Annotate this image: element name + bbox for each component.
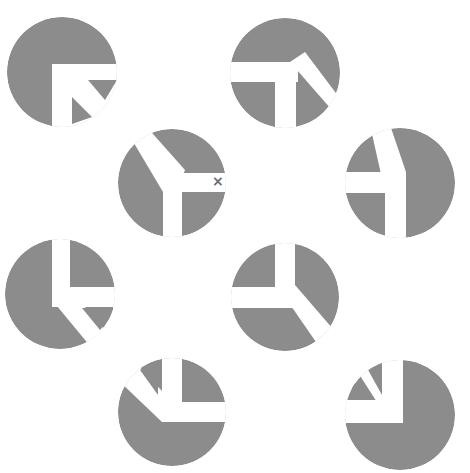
disk-8 (340, 352, 455, 470)
disk-4 (340, 125, 455, 242)
disk-cutout (225, 62, 298, 82)
cross-marker-icon: × (212, 174, 224, 188)
disk-cutout (163, 173, 182, 240)
disk-2 (225, 18, 345, 135)
disk-cutout (275, 82, 296, 135)
disk-1 (7, 17, 125, 130)
disk-figure (0, 0, 470, 473)
disk-5 (5, 235, 120, 352)
disk-cutout (52, 64, 125, 130)
disk-7 (118, 352, 232, 466)
disk-6 (225, 240, 345, 355)
diagram-canvas: × (0, 0, 470, 473)
